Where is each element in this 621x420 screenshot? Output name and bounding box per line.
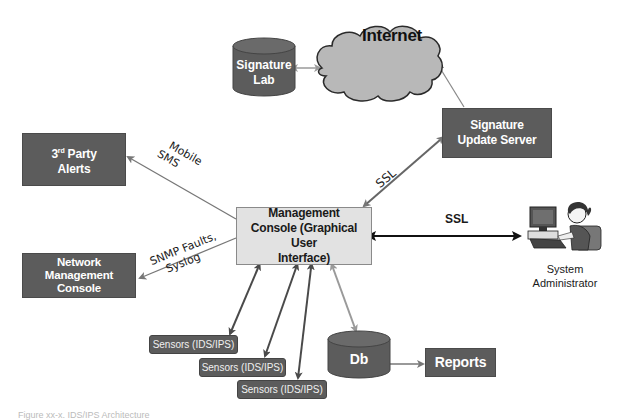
sensor-node-2: Sensors (IDS/IPS) <box>199 358 286 377</box>
signature-lab-label: Signature Lab <box>233 58 295 88</box>
edge-update-server-console <box>364 140 440 206</box>
admin-line2: Administrator <box>530 276 600 290</box>
edge-console-sensor-2 <box>265 268 296 356</box>
nmc-line3: Console <box>57 282 101 295</box>
sensor-node-1: Sensors (IDS/IPS) <box>149 335 238 354</box>
system-administrator-icon <box>528 202 601 250</box>
sensor-node-3: Sensors (IDS/IPS) <box>237 380 327 399</box>
nmc-line2: Management <box>45 269 113 282</box>
console-line1: Management <box>268 206 339 221</box>
signature-lab-line1: Signature <box>233 58 295 73</box>
internet-label: Internet <box>352 26 432 46</box>
nmc-line1: Network <box>57 256 101 269</box>
reports-node: Reports <box>425 348 496 377</box>
reports-label: Reports <box>435 355 487 370</box>
admin-line1: System <box>530 262 600 276</box>
update-server-line1: Signature <box>470 118 524 133</box>
update-server-line2: Update Server <box>458 133 537 148</box>
alerts-line2: Alerts <box>58 162 91 177</box>
ssl-admin-label: SSL <box>445 212 468 226</box>
db-label: Db <box>328 352 390 367</box>
edge-console-sensor-1 <box>230 268 258 334</box>
console-line2: Console (Graphical User <box>237 221 371 251</box>
network-management-console-node: Network Management Console <box>22 253 136 298</box>
alerts-line1: 3rd Party <box>51 143 96 162</box>
third-party-alerts-node: 3rd Party Alerts <box>22 133 126 186</box>
edge-console-db <box>333 268 356 331</box>
figure-caption: Figure xx-x. IDS/IPS Architecture <box>18 410 150 420</box>
edge-internet-update-server <box>440 68 464 107</box>
console-line3: Interface) <box>278 251 330 266</box>
system-administrator-label: System Administrator <box>530 262 600 290</box>
edge-console-sensor-3 <box>298 268 311 378</box>
management-console-node: Management Console (Graphical User Inter… <box>236 207 372 265</box>
signature-lab-line2: Lab <box>233 73 295 88</box>
alerts-line1-suffix: Party <box>64 147 96 161</box>
signature-update-server-node: Signature Update Server <box>442 108 552 158</box>
